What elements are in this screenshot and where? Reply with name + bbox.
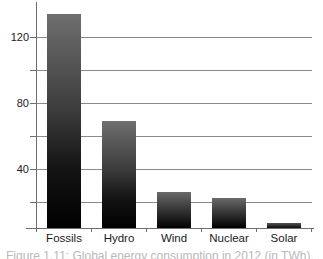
figure-bar-chart: 120 80 40 Fossils Hydro Wind Nu [0,0,323,259]
bar-group-fossils [36,4,91,228]
bar-nuclear[interactable] [212,198,246,228]
x-tick-mark-4 [256,228,257,232]
x-tick-mark-1 [91,228,92,232]
x-label-hydro: Hydro [104,232,135,245]
bar-group-nuclear [201,4,256,228]
bar-group-hydro [91,4,146,228]
bar-fossils[interactable] [47,14,81,228]
x-tick-mark-0 [36,228,37,232]
bar-group-solar [256,4,311,228]
x-tick-mark-3 [201,228,202,232]
y-tick-label-40: 40 [1,164,29,175]
bar-group-wind [146,4,201,228]
x-label-solar: Solar [271,232,298,245]
figure-caption: Figure 1.11: Global energy consumption i… [6,249,323,259]
x-label-fossils: Fossils [46,232,82,245]
x-label-wind: Wind [161,232,187,245]
x-tick-mark-5 [311,228,312,232]
y-axis-tick-labels: 120 80 40 [0,0,29,232]
y-tick-label-120: 120 [1,32,29,43]
bar-hydro[interactable] [102,121,136,228]
y-tick-label-80: 80 [1,98,29,109]
x-tick-mark-2 [146,228,147,232]
bar-series [36,4,312,228]
x-label-nuclear: Nuclear [209,232,249,245]
x-axis: Fossils Hydro Wind Nuclear Solar [36,228,312,246]
bar-wind[interactable] [157,192,191,228]
